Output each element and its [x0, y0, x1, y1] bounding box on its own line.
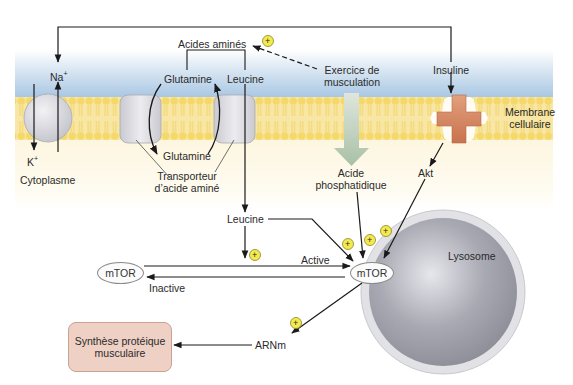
- mrna-label: ARNm: [255, 339, 286, 351]
- akt-label: Akt: [418, 167, 433, 179]
- inactive-label: Inactive: [149, 282, 185, 294]
- plus-sign: +: [293, 317, 298, 329]
- leucine-top-label: Leucine: [227, 73, 264, 85]
- glutamine-top-label: Glutamine: [164, 73, 212, 85]
- mtor-to-mrna-arrow: [292, 283, 362, 333]
- mtor-active: mTOR: [350, 262, 394, 284]
- potassium-label: K+: [27, 153, 38, 168]
- plus-sign: +: [265, 35, 270, 47]
- sodium-potassium-pump: [24, 94, 72, 142]
- lysosome-label: Lysosome: [448, 250, 495, 262]
- plus-sign: +: [252, 249, 257, 261]
- synthesis-line-1: Synthèse protéique: [75, 335, 165, 347]
- plus-sign: +: [383, 225, 388, 237]
- exercise-label: Exercice demusculation: [324, 64, 380, 88]
- synthesis-line-2: musculaire: [95, 347, 146, 359]
- mtor-inactive: mTOR: [97, 262, 144, 284]
- protein-synthesis-box: Synthèse protéique musculaire: [68, 322, 172, 372]
- amino-acid-transporter-1: [120, 95, 161, 143]
- transporter-label: Transporteurd’acide aminé: [155, 170, 220, 194]
- membrane-label: Membranecellulaire: [505, 106, 555, 130]
- leucine-cytoplasm-label: Leucine: [227, 213, 264, 225]
- glutamine-bottom-label: Glutamine: [163, 150, 211, 162]
- amino-acids-label: Acides aminés: [178, 38, 246, 50]
- amino-acid-transporter-2: [214, 95, 255, 143]
- phosphatidic-acid-label: Acidephosphatidique: [315, 167, 386, 191]
- sodium-label: Na+: [50, 68, 68, 83]
- cytoplasm-region: [15, 140, 553, 210]
- active-label: Active: [301, 254, 330, 266]
- insulin-label: Insuline: [433, 64, 469, 76]
- cytoplasm-label: Cytoplasme: [20, 174, 75, 186]
- plus-sign: +: [367, 234, 372, 246]
- plus-sign: +: [345, 238, 350, 250]
